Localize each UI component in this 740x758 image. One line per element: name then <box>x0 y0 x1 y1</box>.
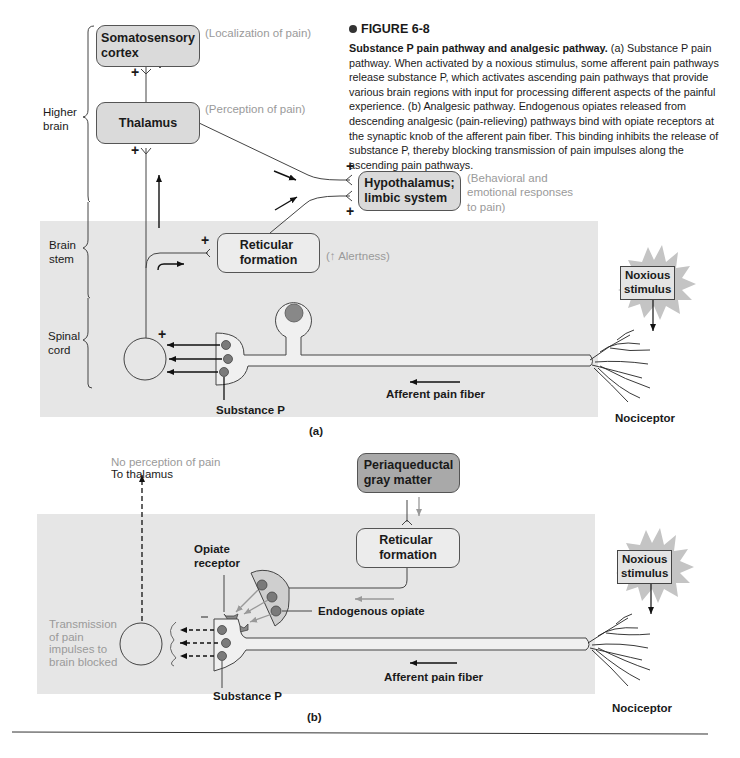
endogenous-opiate-label: Endogenous opiate <box>318 604 425 618</box>
alertness-annotation: (↑ Alertness) <box>326 249 390 263</box>
plus-sign: + <box>346 203 354 221</box>
reticular-formation-box-b: Reticular formation <box>356 528 460 568</box>
region-brace <box>83 26 94 388</box>
afferent-fiber-label-b: Afferent pain fiber <box>384 670 483 684</box>
thalamus-box: Thalamus <box>96 102 200 144</box>
plus-sign: + <box>158 326 166 344</box>
afferent-fiber-label-a: Afferent pain fiber <box>386 387 485 401</box>
nociceptor-label-a: Nociceptor <box>615 411 675 425</box>
behavioral-annotation: (Behavioral and emotional responses to p… <box>467 171 573 214</box>
periaqueductal-gray-box: Periaqueductal gray matter <box>357 453 460 493</box>
higher-brain-label: Higher brain <box>43 105 77 134</box>
brain-stem-label: Brain stem <box>49 238 76 267</box>
noxious-stimulus-label-a: Noxious stimulus <box>620 266 675 300</box>
plus-sign: + <box>346 158 354 176</box>
noxious-stimulus-label-b: Noxious stimulus <box>617 550 672 584</box>
reticular-formation-box-a: Reticular formation <box>217 233 320 273</box>
plus-sign: + <box>131 142 139 160</box>
substance-p-label-a: Substance P <box>216 403 285 417</box>
plus-sign: + <box>131 64 139 82</box>
nociceptor-endings-a <box>590 330 650 402</box>
plus-sign: + <box>201 232 209 250</box>
panel-b-tag: (b) <box>307 710 322 724</box>
nociceptor-label-b: Nociceptor <box>612 701 672 715</box>
nociceptor-endings-b <box>588 614 650 686</box>
panel-a-tag: (a) <box>309 424 323 438</box>
hypothalamus-limbic-box: Hypothalamus; limbic system <box>358 171 461 211</box>
transmission-blocked-label: Transmission of pain impulses to brain b… <box>49 618 117 669</box>
to-thalamus-label: To thalamus <box>111 467 173 481</box>
somatosensory-cortex-box: Somatosensory cortex <box>96 25 200 67</box>
spinal-cord-label: Spinal cord <box>48 329 80 358</box>
opiate-receptor-label: Opiate receptor <box>194 542 240 571</box>
perception-annotation: (Perception of pain) <box>205 102 305 116</box>
localization-annotation: (Localization of pain) <box>205 26 311 40</box>
substance-p-label-b: Substance P <box>213 689 282 703</box>
